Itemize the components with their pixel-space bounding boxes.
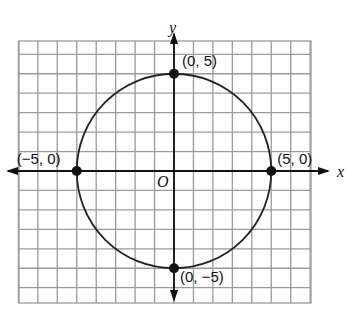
axes bbox=[6, 32, 330, 302]
y-arrow-down-icon bbox=[170, 290, 178, 302]
x-arrow-right-icon bbox=[318, 167, 330, 175]
x-arrow-left-icon bbox=[6, 167, 18, 175]
x-axis-label: x bbox=[336, 163, 344, 180]
point-label-bottom: (0, −5) bbox=[180, 268, 224, 285]
points: (0, 5)(5, 0)(−5, 0)(0, −5) bbox=[17, 52, 313, 286]
point-label-right: (5, 0) bbox=[277, 150, 312, 167]
y-axis-label: y bbox=[167, 19, 177, 37]
point-marker bbox=[72, 166, 82, 176]
coordinate-plane: (0, 5)(5, 0)(−5, 0)(0, −5) x y O bbox=[0, 0, 359, 315]
point-marker bbox=[169, 263, 179, 273]
point-label-top: (0, 5) bbox=[182, 52, 217, 69]
point-marker bbox=[169, 69, 179, 79]
origin-label: O bbox=[157, 173, 169, 190]
point-marker bbox=[266, 166, 276, 176]
point-label-left: (−5, 0) bbox=[17, 150, 61, 167]
